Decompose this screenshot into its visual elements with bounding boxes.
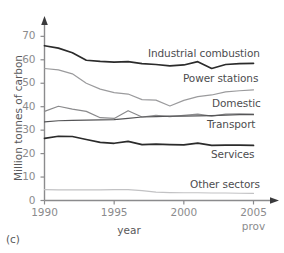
y-tick-label: 0: [12, 194, 36, 206]
series-line-services: [45, 136, 254, 145]
y-tick-label: 30: [12, 123, 36, 135]
x-axis-title: year: [0, 224, 258, 236]
series-label-power-stations: Power stations: [183, 72, 258, 84]
prov-note-label: prov: [234, 220, 274, 232]
series-label-industrial-combustion: Industrial combustion: [148, 47, 260, 59]
x-tick-label: 1995: [94, 206, 134, 218]
x-tick-label: 2000: [164, 206, 204, 218]
series-label-other-sectors: Other sectors: [190, 178, 260, 190]
chart-figure: Million tonnes of carbon year 0102030405…: [0, 0, 284, 253]
panel-label: (c): [6, 233, 20, 245]
x-tick-label: 2005: [234, 206, 274, 218]
y-tick-label: 50: [12, 76, 36, 88]
x-axis-arrow: [270, 197, 279, 204]
y-axis-arrow: [41, 16, 48, 25]
y-tick-label: 20: [12, 147, 36, 159]
series-label-services: Services: [211, 148, 254, 160]
series-label-transport: Transport: [207, 118, 255, 130]
y-tick-label: 10: [12, 170, 36, 182]
series-line-other-sectors: [45, 190, 254, 194]
series-label-domestic: Domestic: [212, 97, 261, 109]
x-tick-label: 1990: [25, 206, 65, 218]
y-tick-label: 60: [12, 53, 36, 65]
y-tick-label: 70: [12, 29, 36, 41]
y-tick-label: 40: [12, 100, 36, 112]
